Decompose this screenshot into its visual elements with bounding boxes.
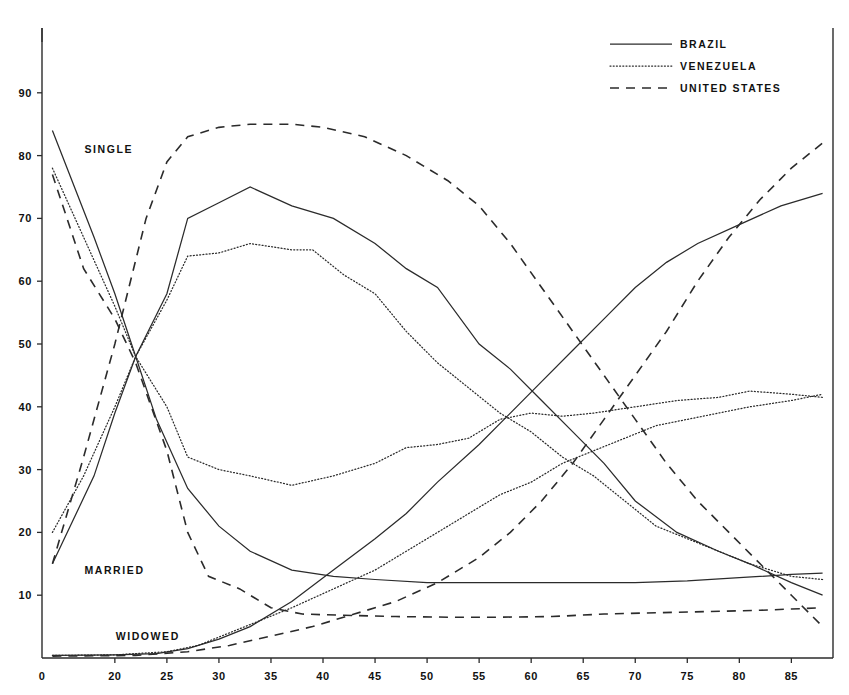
x-tick-label: 35	[264, 670, 277, 682]
legend: BRAZILVENEZUELAUNITED STATES	[610, 38, 781, 94]
x-tick-label: 0	[39, 670, 46, 682]
x-tick-label: 75	[681, 670, 694, 682]
group-label-married: MARRIED	[84, 564, 144, 576]
y-tick-label: 10	[19, 589, 32, 601]
chart-container: 102030405060708090 020253035404550556065…	[0, 0, 849, 695]
y-tick-label: 80	[19, 150, 32, 162]
series-line-venezuela-widowed	[52, 394, 822, 655]
y-tick-label: 60	[19, 275, 32, 287]
group-label-single: SINGLE	[84, 143, 133, 155]
x-tick-group: 02025303540455055606570758085	[39, 658, 798, 682]
series-line-united-states-married	[52, 124, 822, 626]
series-line-venezuela-single	[52, 168, 822, 485]
y-tick-label: 40	[19, 401, 32, 413]
series-line-brazil-married	[52, 187, 822, 595]
y-tick-label: 90	[19, 87, 32, 99]
y-tick-label: 20	[19, 526, 32, 538]
legend-label-united-states: UNITED STATES	[680, 82, 781, 94]
series-line-brazil-single	[52, 130, 822, 582]
x-tick-label: 60	[524, 670, 537, 682]
x-tick-label: 20	[108, 670, 121, 682]
series-line-brazil-widowed	[52, 193, 822, 655]
x-tick-label: 40	[316, 670, 329, 682]
legend-label-venezuela: VENEZUELA	[680, 60, 757, 72]
x-tick-label: 45	[368, 670, 381, 682]
y-tick-label: 30	[19, 464, 32, 476]
x-tick-label: 85	[785, 670, 798, 682]
group-label-widowed: WIDOWED	[116, 630, 180, 642]
y-tick-group: 102030405060708090	[19, 28, 42, 601]
line-chart-svg: 102030405060708090 020253035404550556065…	[0, 0, 849, 695]
y-tick-label: 50	[19, 338, 32, 350]
x-tick-label: 55	[472, 670, 485, 682]
x-tick-label: 70	[629, 670, 642, 682]
annotation-group: SINGLEMARRIEDWIDOWED	[84, 143, 180, 642]
series-line-united-states-single	[52, 174, 822, 617]
x-tick-label: 30	[212, 670, 225, 682]
x-tick-label: 65	[576, 670, 589, 682]
x-tick-label: 50	[420, 670, 433, 682]
series-group	[52, 124, 822, 656]
y-tick-label: 70	[19, 212, 32, 224]
x-tick-label: 25	[160, 670, 173, 682]
x-tick-label: 80	[733, 670, 746, 682]
legend-label-brazil: BRAZIL	[680, 38, 728, 50]
series-line-venezuela-married	[52, 244, 822, 580]
axis-frame	[42, 28, 833, 658]
